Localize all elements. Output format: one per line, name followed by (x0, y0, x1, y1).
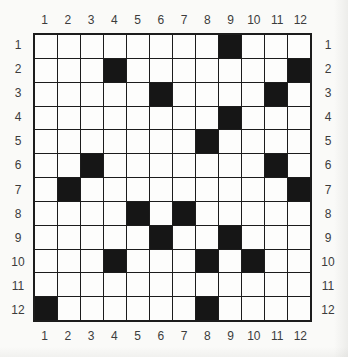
grid-cell-r7-c12[interactable] (288, 178, 310, 201)
grid-cell-r2-c6[interactable] (150, 59, 172, 82)
grid-cell-r10-c5[interactable] (127, 250, 149, 273)
grid-cell-r10-c6[interactable] (150, 250, 172, 273)
grid-cell-r8-c2[interactable] (58, 202, 80, 225)
grid-cell-r6-c3[interactable] (81, 154, 103, 177)
grid-cell-r7-c6[interactable] (150, 178, 172, 201)
grid-cell-r4-c1[interactable] (35, 107, 57, 130)
grid-cell-r2-c1[interactable] (35, 59, 57, 82)
grid-cell-r10-c8[interactable] (196, 250, 218, 273)
grid-cell-r2-c2[interactable] (58, 59, 80, 82)
grid-cell-r6-c8[interactable] (196, 154, 218, 177)
grid-cell-r11-c10[interactable] (242, 273, 264, 296)
grid-cell-r12-c6[interactable] (150, 297, 172, 320)
grid-cell-r8-c9[interactable] (219, 202, 241, 225)
grid-cell-r5-c6[interactable] (150, 130, 172, 153)
grid-cell-r6-c5[interactable] (127, 154, 149, 177)
grid-cell-r5-c10[interactable] (242, 130, 264, 153)
grid-cell-r8-c12[interactable] (288, 202, 310, 225)
grid-cell-r9-c10[interactable] (242, 226, 264, 249)
grid-cell-r8-c6[interactable] (150, 202, 172, 225)
grid-cell-r5-c4[interactable] (104, 130, 126, 153)
grid-cell-r6-c10[interactable] (242, 154, 264, 177)
grid-cell-r11-c2[interactable] (58, 273, 80, 296)
grid-cell-r1-c2[interactable] (58, 35, 80, 58)
grid-cell-r3-c4[interactable] (104, 83, 126, 106)
grid-cell-r2-c10[interactable] (242, 59, 264, 82)
grid-cell-r1-c4[interactable] (104, 35, 126, 58)
grid-cell-r12-c9[interactable] (219, 297, 241, 320)
grid-cell-r4-c7[interactable] (173, 107, 195, 130)
grid-cell-r12-c11[interactable] (265, 297, 287, 320)
grid-cell-r8-c4[interactable] (104, 202, 126, 225)
grid-cell-r8-c5[interactable] (127, 202, 149, 225)
grid-cell-r5-c5[interactable] (127, 130, 149, 153)
grid-cell-r5-c12[interactable] (288, 130, 310, 153)
grid-cell-r2-c12[interactable] (288, 59, 310, 82)
grid-cell-r4-c3[interactable] (81, 107, 103, 130)
grid-cell-r12-c4[interactable] (104, 297, 126, 320)
grid-cell-r7-c4[interactable] (104, 178, 126, 201)
grid-cell-r4-c2[interactable] (58, 107, 80, 130)
grid-cell-r7-c11[interactable] (265, 178, 287, 201)
grid-cell-r7-c2[interactable] (58, 178, 80, 201)
grid-cell-r12-c12[interactable] (288, 297, 310, 320)
grid-cell-r3-c1[interactable] (35, 83, 57, 106)
grid-cell-r1-c1[interactable] (35, 35, 57, 58)
grid-cell-r5-c8[interactable] (196, 130, 218, 153)
grid-cell-r6-c9[interactable] (219, 154, 241, 177)
grid-cell-r2-c4[interactable] (104, 59, 126, 82)
grid-cell-r8-c10[interactable] (242, 202, 264, 225)
grid-cell-r4-c10[interactable] (242, 107, 264, 130)
grid-cell-r6-c11[interactable] (265, 154, 287, 177)
grid-cell-r9-c12[interactable] (288, 226, 310, 249)
grid-cell-r8-c8[interactable] (196, 202, 218, 225)
grid-cell-r7-c1[interactable] (35, 178, 57, 201)
grid-cell-r5-c3[interactable] (81, 130, 103, 153)
grid-cell-r4-c5[interactable] (127, 107, 149, 130)
grid-cell-r7-c5[interactable] (127, 178, 149, 201)
grid-cell-r12-c3[interactable] (81, 297, 103, 320)
grid-cell-r6-c6[interactable] (150, 154, 172, 177)
grid-cell-r4-c6[interactable] (150, 107, 172, 130)
grid-cell-r5-c2[interactable] (58, 130, 80, 153)
grid-cell-r4-c11[interactable] (265, 107, 287, 130)
grid-cell-r3-c11[interactable] (265, 83, 287, 106)
grid-cell-r10-c4[interactable] (104, 250, 126, 273)
grid-cell-r1-c9[interactable] (219, 35, 241, 58)
grid-cell-r10-c1[interactable] (35, 250, 57, 273)
grid-cell-r9-c7[interactable] (173, 226, 195, 249)
grid-cell-r9-c8[interactable] (196, 226, 218, 249)
grid-cell-r3-c3[interactable] (81, 83, 103, 106)
grid-cell-r9-c9[interactable] (219, 226, 241, 249)
grid-cell-r10-c2[interactable] (58, 250, 80, 273)
grid-cell-r11-c9[interactable] (219, 273, 241, 296)
grid-cell-r10-c12[interactable] (288, 250, 310, 273)
grid-cell-r7-c9[interactable] (219, 178, 241, 201)
grid-cell-r2-c11[interactable] (265, 59, 287, 82)
grid-cell-r2-c9[interactable] (219, 59, 241, 82)
grid-cell-r1-c12[interactable] (288, 35, 310, 58)
grid-cell-r3-c6[interactable] (150, 83, 172, 106)
grid-cell-r2-c8[interactable] (196, 59, 218, 82)
grid-cell-r12-c5[interactable] (127, 297, 149, 320)
grid-cell-r10-c7[interactable] (173, 250, 195, 273)
grid-cell-r9-c1[interactable] (35, 226, 57, 249)
grid-cell-r6-c7[interactable] (173, 154, 195, 177)
grid-cell-r3-c8[interactable] (196, 83, 218, 106)
grid-cell-r3-c10[interactable] (242, 83, 264, 106)
grid-cell-r12-c8[interactable] (196, 297, 218, 320)
grid-cell-r11-c12[interactable] (288, 273, 310, 296)
grid-cell-r7-c7[interactable] (173, 178, 195, 201)
grid-cell-r4-c8[interactable] (196, 107, 218, 130)
grid-cell-r9-c3[interactable] (81, 226, 103, 249)
grid-cell-r6-c1[interactable] (35, 154, 57, 177)
grid-cell-r10-c9[interactable] (219, 250, 241, 273)
grid-cell-r8-c11[interactable] (265, 202, 287, 225)
grid-cell-r3-c9[interactable] (219, 83, 241, 106)
grid-cell-r1-c10[interactable] (242, 35, 264, 58)
grid-cell-r11-c4[interactable] (104, 273, 126, 296)
grid-cell-r6-c2[interactable] (58, 154, 80, 177)
grid-cell-r1-c11[interactable] (265, 35, 287, 58)
grid-cell-r8-c7[interactable] (173, 202, 195, 225)
grid-cell-r7-c10[interactable] (242, 178, 264, 201)
